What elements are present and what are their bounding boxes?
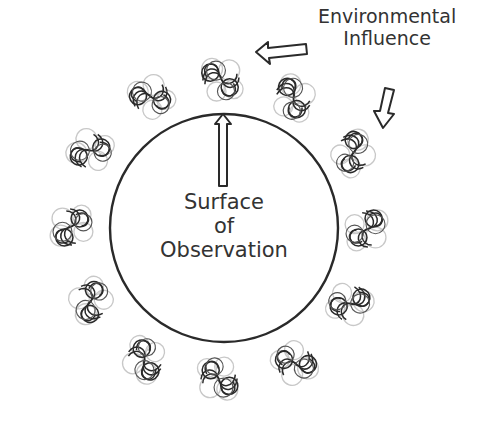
swirl-cluster-lower-right bbox=[266, 335, 322, 392]
environmental-label-line1: Environmental bbox=[318, 6, 456, 28]
surface-of-observation-label: Surface of Observation bbox=[150, 190, 298, 262]
environment-arrow-down-icon bbox=[374, 88, 394, 128]
swirl-cluster-left-upper bbox=[62, 121, 119, 178]
diagram-canvas: Environmental Influence Surface of Obser… bbox=[0, 0, 498, 444]
environment-arrow-left-icon bbox=[256, 42, 307, 64]
swirl-cluster-bottom bbox=[197, 356, 239, 400]
surface-label-line2: of bbox=[150, 214, 298, 238]
swirl-cluster-upper-left bbox=[124, 68, 181, 125]
surface-label-line1: Surface bbox=[150, 190, 298, 214]
swirl-cluster-left-lower bbox=[62, 272, 119, 329]
environmental-influence-label: Environmental Influence bbox=[318, 6, 456, 50]
surface-arrow-up-icon bbox=[215, 114, 231, 186]
swirl-cluster-top bbox=[201, 58, 243, 102]
swirl-cluster-right-lower bbox=[320, 276, 378, 333]
environmental-label-line2: Influence bbox=[318, 28, 456, 50]
swirl-cluster-right bbox=[345, 210, 388, 251]
swirl-cluster-lower-left bbox=[115, 330, 172, 388]
swirl-cluster-upper-right bbox=[266, 70, 322, 127]
swirl-cluster-left bbox=[50, 205, 93, 246]
surface-label-line3: Observation bbox=[150, 238, 298, 262]
swirl-cluster-right-upper bbox=[325, 125, 383, 182]
